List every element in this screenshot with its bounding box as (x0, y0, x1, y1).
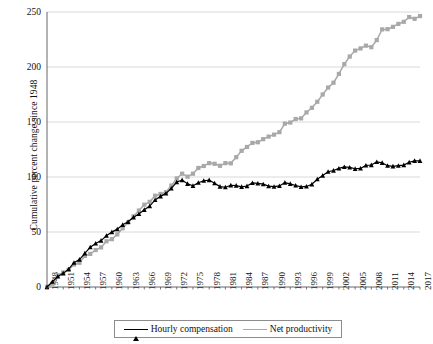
legend-item-hourly-compensation: Hourly compensation (124, 324, 233, 334)
data-point-marker (120, 222, 125, 227)
data-point-marker (180, 172, 184, 176)
data-point-marker (148, 200, 152, 204)
data-point-marker (353, 49, 357, 53)
data-point-marker (153, 194, 157, 198)
legend-marker-net-productivity (243, 325, 267, 334)
data-point-marker (375, 38, 379, 42)
data-point-marker (93, 241, 98, 246)
data-point-marker (396, 22, 400, 26)
series-line (47, 161, 420, 287)
data-point-marker (294, 117, 298, 121)
data-point-marker (256, 140, 260, 144)
data-point-marker (234, 155, 238, 159)
data-point-marker (267, 135, 271, 139)
data-point-marker (191, 172, 195, 176)
data-point-marker (180, 178, 185, 183)
data-point-marker (402, 20, 406, 24)
data-point-marker (337, 72, 341, 76)
data-point-marker (321, 92, 325, 96)
legend-marker-hourly-compensation (124, 325, 148, 334)
data-point-marker (142, 203, 146, 207)
data-point-marker (283, 122, 287, 126)
data-point-marker (115, 232, 119, 236)
data-point-marker (185, 175, 189, 179)
data-point-marker (288, 120, 292, 124)
data-point-marker (342, 62, 346, 66)
data-point-marker (245, 145, 249, 149)
data-point-marker (407, 15, 411, 19)
data-point-marker (364, 44, 368, 48)
data-point-marker (223, 161, 227, 165)
data-point-marker (299, 116, 303, 120)
data-point-marker (110, 237, 114, 241)
data-point-marker (202, 164, 206, 168)
data-point-marker (412, 17, 416, 21)
data-point-marker (104, 239, 108, 243)
data-point-marker (207, 161, 211, 165)
data-point-marker (250, 141, 254, 145)
data-point-marker (358, 46, 362, 50)
data-point-marker (94, 248, 98, 252)
data-point-marker (261, 137, 265, 141)
data-point-marker (310, 106, 314, 110)
legend-item-net-productivity: Net productivity (243, 324, 333, 334)
data-point-marker (88, 252, 92, 256)
data-point-marker (380, 27, 384, 31)
data-point-marker (240, 149, 244, 153)
data-point-marker (385, 27, 389, 31)
data-point-marker (369, 45, 373, 49)
legend-label-hourly-compensation: Hourly compensation (151, 324, 233, 334)
data-point-marker (212, 181, 217, 186)
data-point-marker (272, 133, 276, 137)
chart-legend: Hourly compensation Net productivity (114, 320, 342, 338)
data-point-marker (99, 245, 103, 249)
legend-label-net-productivity: Net productivity (270, 324, 333, 334)
series-net-productivity (45, 14, 422, 289)
data-point-marker (304, 110, 308, 114)
data-point-marker (315, 100, 319, 104)
data-point-marker (326, 85, 330, 89)
data-point-marker (331, 81, 335, 85)
series-hourly-compensation (45, 158, 423, 289)
data-point-marker (391, 25, 395, 29)
data-point-marker (212, 162, 216, 166)
data-point-marker (348, 54, 352, 58)
data-point-marker (418, 14, 422, 18)
data-point-marker (196, 166, 200, 170)
data-point-marker (277, 130, 281, 134)
data-point-marker (229, 161, 233, 165)
data-point-marker (218, 164, 222, 168)
